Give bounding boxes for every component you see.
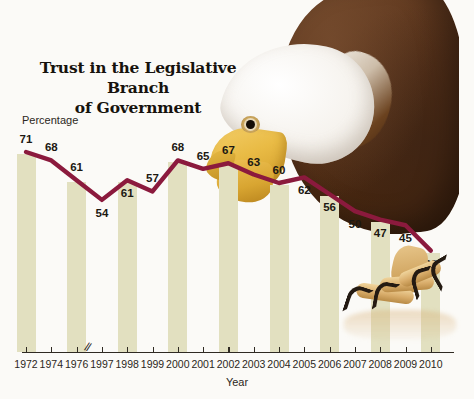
data-point-label: 57: [138, 172, 168, 184]
data-point-label: 54: [87, 207, 117, 219]
data-point-label: 60: [264, 164, 294, 176]
data-point-label: 67: [213, 144, 243, 156]
data-point-label: 36: [416, 258, 446, 270]
data-point-label: 61: [62, 161, 92, 173]
chart-title-line1: Trust in the Legislative Branch: [40, 58, 237, 97]
data-point-label: 45: [391, 232, 421, 244]
y-axis-label: Percentage: [22, 114, 78, 126]
chart-title-line2: of Government: [75, 98, 201, 117]
x-axis-tick-label: 2010: [414, 358, 448, 370]
data-point-label: 68: [36, 141, 66, 153]
data-point-label: 56: [315, 201, 345, 213]
data-point-label: 62: [289, 184, 319, 196]
chart-title: Trust in the Legislative Branch of Gover…: [14, 58, 262, 117]
data-point-label: 61: [112, 187, 142, 199]
x-axis-label: Year: [0, 376, 474, 388]
chart-figure: // 1972197419761997199819992000200120022…: [0, 0, 474, 399]
